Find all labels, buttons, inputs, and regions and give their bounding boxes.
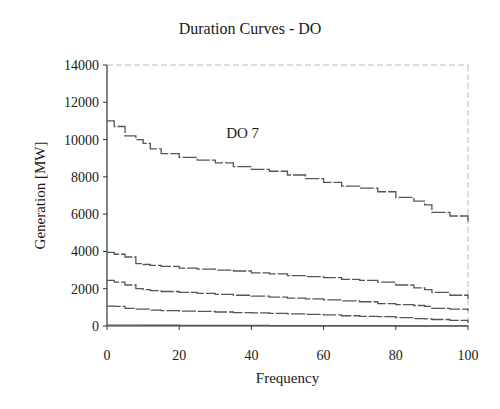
x-tick-label: 100: [458, 348, 479, 363]
x-tick-label: 40: [244, 348, 258, 363]
y-axis-label: Generation [MW]: [32, 142, 48, 250]
series-line-1: [107, 121, 468, 222]
y-tick-label: 4000: [71, 244, 99, 259]
x-tick-label: 80: [389, 348, 403, 363]
x-tick-label: 20: [172, 348, 186, 363]
y-tick-label: 14000: [64, 58, 99, 73]
x-tick-label: 60: [317, 348, 331, 363]
y-tick-label: 2000: [71, 282, 99, 297]
series-line-4: [107, 306, 468, 323]
x-axis-label: Frequency: [256, 370, 320, 386]
y-tick-label: 12000: [64, 95, 99, 110]
y-tick-label: 8000: [71, 170, 99, 185]
series-annotation: DO 7: [226, 125, 259, 141]
y-tick-label: 10000: [64, 133, 99, 148]
duration-curves-chart: 0200040006000800010000120001400002040608…: [0, 0, 500, 409]
x-tick-label: 0: [104, 348, 111, 363]
y-tick-label: 0: [92, 319, 99, 334]
y-tick-label: 6000: [71, 207, 99, 222]
series-line-5: [107, 325, 468, 326]
